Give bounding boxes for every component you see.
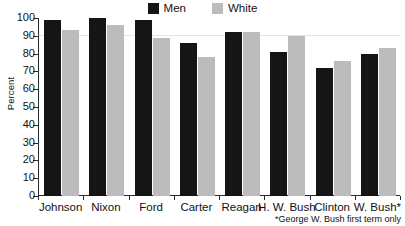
y-axis-title: Percent — [5, 62, 16, 126]
y-tick-label: 40 — [23, 118, 35, 131]
y-tick-label: 100 — [17, 11, 35, 24]
bar-group — [130, 18, 175, 196]
bar-men — [44, 20, 61, 196]
legend-swatch-men — [148, 3, 159, 14]
legend-label-white: White — [228, 2, 257, 14]
bar-group — [84, 18, 129, 196]
y-tick-label: 50 — [23, 100, 35, 113]
bar-white — [243, 32, 260, 196]
legend-entry-men: Men — [148, 2, 186, 14]
bar-group — [175, 18, 220, 196]
legend-label-men: Men — [164, 2, 186, 14]
x-axis-label: Carter — [180, 200, 212, 214]
y-tick-label: 0 — [29, 189, 35, 202]
bar-white — [62, 30, 79, 196]
y-tick-label: 30 — [23, 136, 35, 149]
y-tick-label: 20 — [23, 153, 35, 166]
bar-group — [39, 18, 84, 196]
bar-men — [361, 54, 378, 196]
bar-white — [334, 61, 351, 196]
bar-men — [180, 43, 197, 196]
bar-men — [225, 32, 242, 196]
chart-footnote: *George W. Bush first term only — [275, 214, 401, 225]
bar-group — [265, 18, 310, 196]
bar-series-layer — [39, 18, 400, 196]
x-axis-label: Ford — [139, 200, 163, 214]
y-tick-label: 90 — [23, 29, 35, 42]
bar-group — [220, 18, 265, 196]
x-axis-label: Nixon — [91, 200, 120, 214]
x-axis-label: Reagan — [221, 200, 261, 214]
legend-entry-white: White — [212, 2, 257, 14]
bar-white — [107, 25, 124, 196]
x-axis-label: H. W. Bush — [258, 200, 316, 214]
legend-swatch-white — [212, 3, 223, 14]
bar-white — [379, 48, 396, 196]
bar-group — [356, 18, 401, 196]
bar-white — [153, 38, 170, 196]
x-axis-label: Johnson — [39, 200, 82, 214]
bar-group — [311, 18, 356, 196]
bar-men — [135, 20, 152, 196]
chart-legend: Men White — [0, 0, 405, 16]
y-tick-label: 10 — [23, 171, 35, 184]
bar-men — [316, 68, 333, 196]
y-tick-label: 70 — [23, 64, 35, 77]
bar-white — [288, 36, 305, 196]
plot-area: 0102030405060708090100 — [38, 18, 400, 196]
bar-men — [270, 52, 287, 196]
x-axis-label: Clinton — [314, 200, 350, 214]
x-axis-label: W. Bush* — [354, 200, 401, 214]
y-tick-label: 80 — [23, 47, 35, 60]
bar-white — [198, 57, 215, 196]
bar-men — [89, 18, 106, 196]
y-tick-label: 60 — [23, 82, 35, 95]
bar-chart: Men White Percent 0102030405060708090100… — [0, 0, 405, 226]
